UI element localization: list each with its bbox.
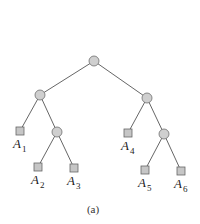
leaf-node-square-A3: [70, 164, 78, 172]
decision-tree-diagram: A1A2A3A4A5A6 (a): [0, 0, 200, 224]
internal-node-circle-n2: [142, 93, 152, 103]
leaf-label-subscript-A4: 4: [130, 146, 135, 156]
leaf-label-subscript-A2: 2: [40, 180, 45, 190]
tree-edge-root-n1: [40, 61, 94, 95]
tree-edge-root-n2: [94, 61, 147, 98]
tree-edges: [20, 61, 181, 171]
tree-edge-n2-A4: [128, 98, 147, 133]
tree-edge-n3-A3: [57, 132, 74, 168]
figure-caption: (a): [87, 203, 100, 216]
leaf-label-A4: A: [120, 138, 129, 153]
tree-edge-n1-n3: [40, 95, 57, 132]
leaf-label-subscript-A1: 1: [22, 144, 27, 154]
tree-edge-n3-A2: [38, 132, 57, 167]
leaf-node-square-A6: [177, 167, 185, 175]
leaf-label-subscript-A5: 5: [147, 183, 152, 193]
leaf-label-A2: A: [30, 172, 39, 187]
tree-edge-n2-n4: [147, 98, 164, 134]
internal-node-circle-root: [89, 56, 99, 66]
internal-node-circle-n1: [35, 90, 45, 100]
leaf-label-subscript-A6: 6: [183, 184, 188, 194]
internal-node-circle-n4: [159, 129, 169, 139]
tree-edge-n4-A5: [145, 134, 164, 170]
leaf-label-A1: A: [12, 136, 21, 151]
tree-nodes: [16, 56, 185, 175]
leaf-label-A6: A: [173, 176, 182, 191]
tree-edge-n1-A1: [20, 95, 40, 131]
tree-edge-n4-A6: [164, 134, 181, 171]
leaf-label-subscript-A3: 3: [76, 181, 81, 191]
leaf-node-square-A1: [16, 127, 24, 135]
leaf-node-square-A5: [141, 166, 149, 174]
leaf-label-A3: A: [66, 173, 75, 188]
leaf-node-square-A4: [124, 129, 132, 137]
leaf-node-square-A2: [34, 163, 42, 171]
internal-node-circle-n3: [52, 127, 62, 137]
leaf-label-A5: A: [137, 175, 146, 190]
